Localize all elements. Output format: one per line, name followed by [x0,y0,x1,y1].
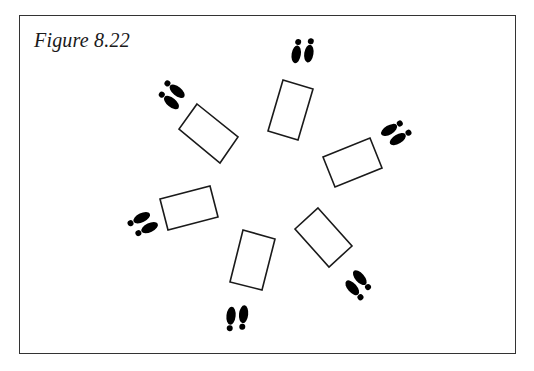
station-right [323,116,415,187]
footprints-icon [222,301,251,335]
footprints-icon [125,208,161,240]
desk-rectangle [179,104,238,163]
station-lower-right [295,208,376,304]
station-top [268,34,318,140]
desk-rectangle [160,186,218,230]
desk-rectangle [295,208,352,267]
station-bottom [222,230,275,335]
desk-rectangle [230,230,275,290]
desk-rectangle [268,80,313,140]
footprints-icon [288,34,318,68]
footprints-icon [378,116,415,150]
footprints-icon [153,76,191,114]
station-diagram [0,0,534,371]
desk-rectangle [323,138,382,187]
station-left [125,186,218,240]
station-upper-left [153,76,238,163]
footprints-icon [340,266,376,304]
